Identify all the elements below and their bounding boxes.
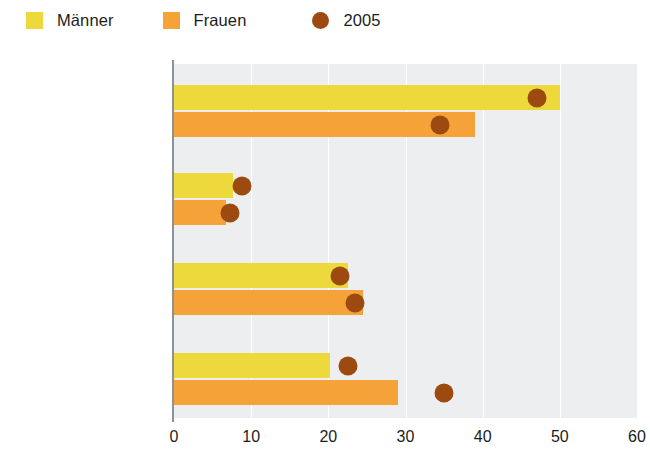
marker-2005	[527, 88, 546, 107]
bar	[174, 290, 363, 315]
plot-area	[174, 64, 637, 418]
gridline	[637, 64, 638, 418]
x-tick-label: 40	[474, 428, 492, 446]
legend-item-label: 2005	[343, 11, 380, 30]
bar	[174, 353, 330, 378]
legend-item-label: Frauen	[194, 11, 247, 30]
gridline	[483, 64, 484, 418]
bar	[174, 200, 226, 225]
marker-2005	[431, 115, 450, 134]
bar	[174, 173, 233, 198]
x-tick-label: 20	[319, 428, 337, 446]
bar	[174, 85, 560, 110]
marker-2005	[435, 383, 454, 402]
legend-item-2005[interactable]: 2005	[312, 5, 380, 35]
plot-surface	[174, 64, 637, 418]
bar	[174, 263, 348, 288]
x-tick-label: 30	[397, 428, 415, 446]
legend-square-icon	[26, 12, 43, 29]
legend-circle-icon	[312, 12, 329, 29]
marker-2005	[338, 356, 357, 375]
marker-2005	[330, 266, 349, 285]
legend-item-label: Männer	[57, 11, 114, 30]
marker-2005	[346, 293, 365, 312]
x-tick-label: 10	[242, 428, 260, 446]
legend-square-icon	[163, 12, 180, 29]
legend-item-frauen[interactable]: Frauen	[163, 5, 247, 35]
x-axis: 0102030405060	[174, 418, 637, 458]
x-tick-label: 50	[551, 428, 569, 446]
x-tick-label: 60	[628, 428, 646, 446]
legend-item-männer[interactable]: Männer	[26, 5, 114, 35]
gridline	[560, 64, 561, 418]
x-tick-label: 0	[170, 428, 179, 446]
marker-2005	[232, 176, 251, 195]
marker-2005	[220, 203, 239, 222]
bar	[174, 380, 398, 405]
chart-legend: MännerFrauen2005	[0, 0, 650, 40]
